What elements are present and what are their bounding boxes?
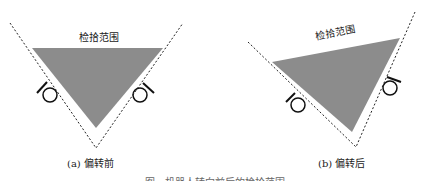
sensor-icon — [286, 93, 305, 112]
pickup-range-b — [272, 38, 400, 132]
sensor-icon — [133, 83, 154, 102]
figure-caption: 图 . 机器人转向前后的检拾范围 — [145, 174, 285, 181]
panel-label-b: (b) 偏转后 — [318, 155, 365, 170]
diagram-canvas — [0, 0, 421, 181]
range-label-a: 检拾范围 — [79, 29, 119, 44]
sensor-icon — [37, 82, 57, 102]
panel-label-a: (a) 偏转前 — [67, 155, 114, 170]
